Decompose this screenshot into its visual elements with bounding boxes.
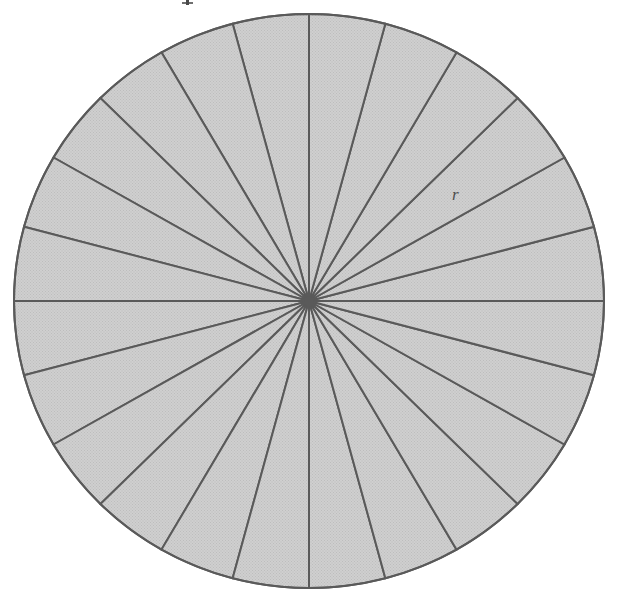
sector-circle-diagram: [0, 0, 624, 604]
figure-stage: r: [0, 0, 624, 604]
center-hub: [304, 296, 314, 306]
radius-label: r: [452, 186, 459, 203]
